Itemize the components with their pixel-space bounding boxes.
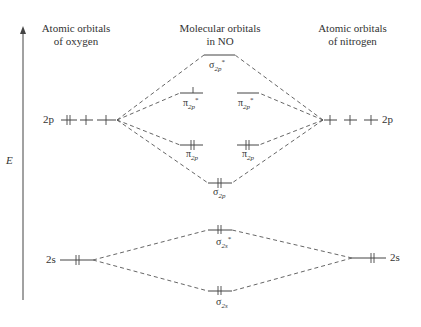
n-2p-label: 2p bbox=[382, 113, 393, 125]
mo-sup: * bbox=[250, 96, 254, 104]
sigma2p-star-label: σ2p* bbox=[209, 58, 225, 73]
mo-sub: 2s bbox=[221, 242, 227, 250]
pi2p-star-label-a: π2p* bbox=[183, 96, 199, 111]
sigma2p-label: σ2p bbox=[213, 186, 225, 200]
energy-label-text: E bbox=[6, 154, 13, 166]
mo-sup: * bbox=[195, 96, 199, 104]
mo-sub: 2p bbox=[247, 154, 254, 162]
sigma2s-label: σ2s bbox=[216, 296, 228, 310]
mo-sup: * bbox=[221, 58, 225, 66]
mo-sub: 2p bbox=[191, 154, 198, 162]
n-2p-label-text: 2p bbox=[382, 113, 393, 125]
o-2s-label-text: 2s bbox=[46, 253, 56, 265]
mo-sup: * bbox=[228, 235, 232, 243]
mo-sub: 2p bbox=[218, 192, 225, 200]
mo-sub: 2p bbox=[243, 103, 250, 111]
pi2p-star-label-b: π2p* bbox=[238, 96, 254, 111]
pi2p-label-a: π2p bbox=[186, 148, 198, 162]
mo-sub: 2s bbox=[221, 302, 227, 310]
mo-sub: 2p bbox=[214, 65, 221, 73]
o-2p-label-text: 2p bbox=[43, 113, 54, 125]
o-2s-label: 2s bbox=[46, 253, 56, 265]
pi2p-label-b: π2p bbox=[242, 148, 254, 162]
mo-sub: 2p bbox=[188, 103, 195, 111]
n-2s-label-text: 2s bbox=[390, 251, 400, 263]
n-2s-label: 2s bbox=[390, 251, 400, 263]
mo-diagram-lines bbox=[0, 0, 421, 327]
sigma2s-star-label: σ2s* bbox=[216, 235, 231, 250]
correlation-lines bbox=[93, 55, 352, 291]
arrow-up-icon bbox=[20, 26, 26, 34]
energy-axis-label: E bbox=[6, 154, 13, 166]
o-2p-label: 2p bbox=[43, 113, 54, 125]
